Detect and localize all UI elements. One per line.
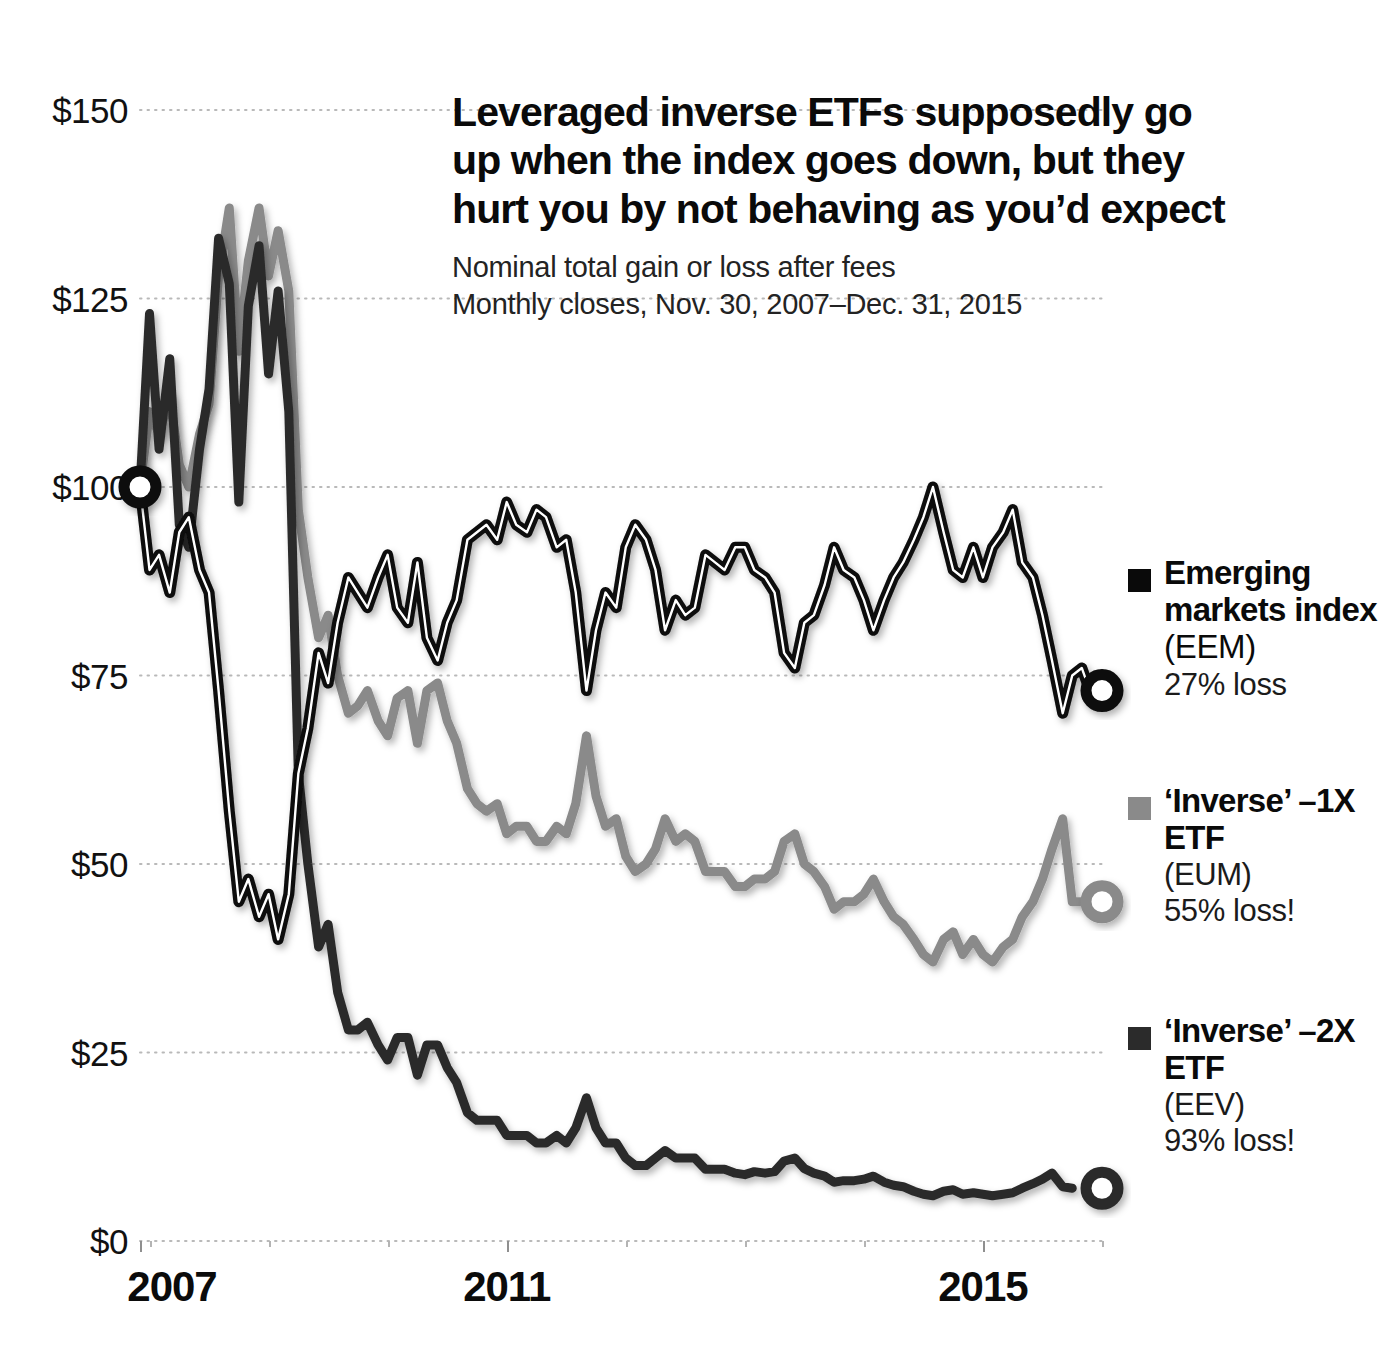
subtitle-line-1: Nominal total gain or loss after fees	[452, 249, 1242, 286]
x-tick-mark-minor	[626, 1241, 628, 1247]
y-axis: $0$25$50$75$100$125$150	[0, 110, 128, 1241]
x-tick-mark	[983, 1241, 985, 1252]
series-layer	[140, 208, 1102, 1196]
legend-text: Emerging markets index (EEM)27% loss	[1164, 555, 1378, 703]
series-line-eem	[140, 487, 1102, 939]
chart-subtitle: Nominal total gain or loss after fees Mo…	[452, 249, 1242, 322]
legend-series-name: ‘Inverse’ –2X ETF	[1164, 1013, 1378, 1087]
x-tick-mark-minor	[864, 1241, 866, 1247]
legend-text: ‘Inverse’ –1X ETF(EUM)55% loss!	[1164, 783, 1378, 929]
subtitle-line-2: Monthly closes, Nov. 30, 2007–Dec. 31, 2…	[452, 286, 1242, 323]
legend-series-name: Emerging markets index (EEM)	[1164, 555, 1378, 666]
endpoint-marker-all	[124, 471, 156, 503]
x-tick-mark	[507, 1241, 509, 1252]
legend-ticker: (EUM)	[1164, 857, 1378, 892]
legend-square-marker-icon	[1128, 1027, 1151, 1050]
endpoint-marker-eev	[1086, 1172, 1118, 1204]
y-tick-label: $75	[8, 658, 128, 693]
chart-headline: Leveraged inverse ETFs supposedly go up …	[452, 88, 1242, 233]
legend-entry[interactable]: ‘Inverse’ –1X ETF(EUM)55% loss!	[1128, 783, 1378, 929]
legend-loss-value: 55% loss!	[1164, 892, 1378, 929]
x-axis: 200720112015	[140, 1241, 1102, 1331]
legend-loss-value: 93% loss!	[1164, 1122, 1378, 1159]
endpoint-marker-eum	[1086, 886, 1118, 918]
title-block: Leveraged inverse ETFs supposedly go up …	[452, 88, 1242, 322]
y-tick-label: $0	[8, 1224, 128, 1259]
legend-square-marker-icon	[1128, 569, 1151, 592]
series-eem	[140, 487, 1102, 939]
x-tick-label: 2015	[938, 1263, 1027, 1311]
x-tick-mark-minor	[269, 1241, 271, 1247]
legend-entry[interactable]: Emerging markets index (EEM)27% loss	[1128, 555, 1378, 703]
x-tick-mark	[140, 1241, 142, 1252]
legend-ticker: (EEM)	[1164, 628, 1256, 665]
x-tick-mark-minor	[745, 1241, 747, 1247]
legend-ticker: (EEV)	[1164, 1087, 1378, 1122]
y-tick-label: $50	[8, 847, 128, 882]
legend-series-name: ‘Inverse’ –1X ETF	[1164, 783, 1378, 857]
x-tick-label: 2007	[127, 1263, 216, 1311]
legend-entry[interactable]: ‘Inverse’ –2X ETF(EEV)93% loss!	[1128, 1013, 1378, 1159]
y-tick-label: $150	[8, 93, 128, 128]
x-tick-mark-minor	[150, 1241, 152, 1247]
legend-square-marker-icon	[1128, 797, 1151, 820]
x-tick-label: 2011	[463, 1263, 550, 1311]
legend-loss-value: 27% loss	[1164, 666, 1378, 703]
y-tick-label: $25	[8, 1035, 128, 1070]
y-tick-label: $100	[8, 470, 128, 505]
legend-text: ‘Inverse’ –2X ETF(EEV)93% loss!	[1164, 1013, 1378, 1159]
x-tick-mark-minor	[388, 1241, 390, 1247]
chart-canvas: $0$25$50$75$100$125$150 200720112015 Lev…	[0, 0, 1389, 1354]
y-tick-label: $125	[8, 281, 128, 316]
x-tick-mark-minor	[1102, 1241, 1104, 1247]
endpoint-marker-eem	[1086, 675, 1118, 707]
